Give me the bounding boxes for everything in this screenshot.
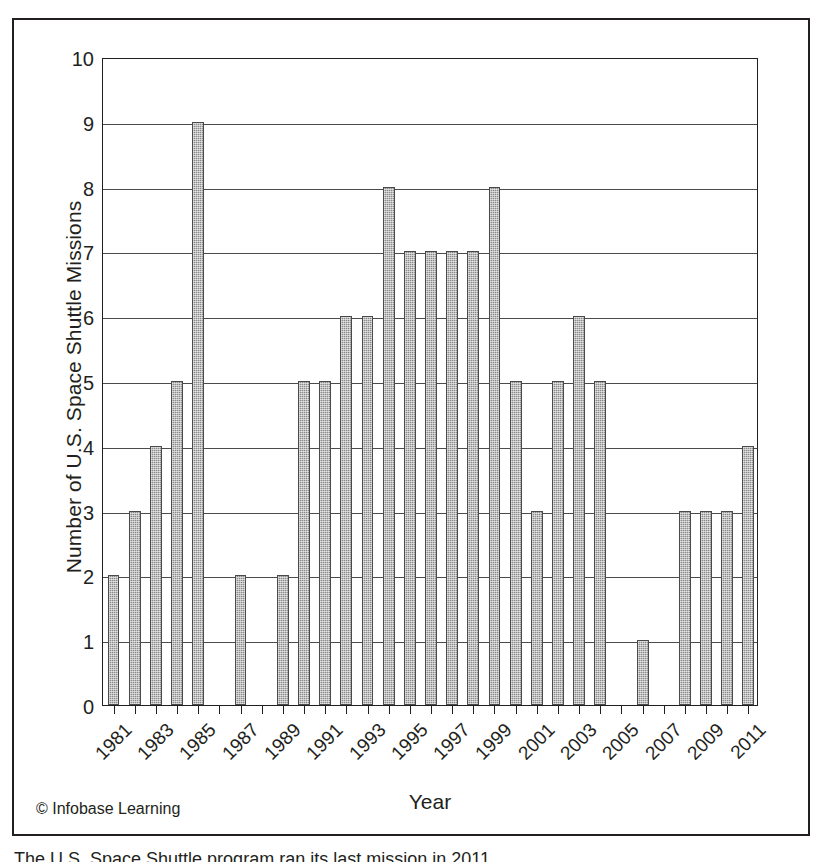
x-tick-label: 1987: [218, 719, 263, 764]
x-tick-label: 1981: [91, 719, 136, 764]
plot-inner: 012345678910 198119831985198719891991199…: [103, 59, 757, 705]
x-tick-mark: [262, 705, 263, 714]
y-tick-label: 1: [83, 631, 94, 654]
bar: [446, 251, 458, 705]
y-tick-label: 3: [83, 501, 94, 524]
bar: [171, 381, 183, 705]
bar: [108, 575, 120, 705]
bar: [340, 316, 352, 705]
x-tick-mark: [494, 705, 495, 714]
x-tick-label: 2003: [556, 719, 601, 764]
bar: [489, 187, 501, 705]
figure-caption: The U.S. Space Shuttle program ran its l…: [14, 848, 814, 862]
x-tick-label: 2001: [514, 719, 559, 764]
x-tick-mark: [516, 705, 517, 714]
bar: [700, 511, 712, 705]
x-tick-label: 1993: [345, 719, 390, 764]
x-tick-label: 2009: [683, 719, 728, 764]
x-tick-mark: [727, 705, 728, 714]
bar: [573, 316, 585, 705]
bar: [319, 381, 331, 705]
x-tick-label: 1983: [133, 719, 178, 764]
x-tick-mark: [558, 705, 559, 714]
bar: [679, 511, 691, 705]
x-tick-label: 2007: [641, 719, 686, 764]
x-tick-mark: [431, 705, 432, 714]
x-tick-mark: [156, 705, 157, 714]
x-tick-mark: [241, 705, 242, 714]
bar: [742, 446, 754, 705]
bar: [467, 251, 479, 705]
x-tick-label: 1989: [260, 719, 305, 764]
x-tick-mark: [621, 705, 622, 714]
bar: [404, 251, 416, 705]
plot-area: 012345678910 198119831985198719891991199…: [102, 58, 758, 706]
x-tick-label: 1991: [302, 719, 347, 764]
x-axis-title: Year: [102, 790, 758, 814]
x-tick-mark: [748, 705, 749, 714]
bar: [552, 381, 564, 705]
x-tick-label: 1985: [175, 719, 220, 764]
copyright-credit: © Infobase Learning: [36, 800, 180, 818]
bar: [192, 122, 204, 705]
bar: [277, 575, 289, 705]
bar: [362, 316, 374, 705]
figure-container: Number of U.S. Space Shuttle Missions 01…: [0, 0, 824, 862]
x-tick-mark: [346, 705, 347, 714]
y-tick-label: 2: [83, 566, 94, 589]
x-tick-mark: [706, 705, 707, 714]
x-tick-mark: [304, 705, 305, 714]
x-tick-mark: [685, 705, 686, 714]
y-tick-label: 0: [83, 696, 94, 719]
x-tick-mark: [198, 705, 199, 714]
x-tick-label: 1999: [472, 719, 517, 764]
x-tick-mark: [135, 705, 136, 714]
x-tick-mark: [643, 705, 644, 714]
x-tick-mark: [410, 705, 411, 714]
bar: [129, 511, 141, 705]
bar: [235, 575, 247, 705]
x-tick-mark: [600, 705, 601, 714]
x-tick-mark: [283, 705, 284, 714]
y-tick-label: 6: [83, 307, 94, 330]
x-tick-mark: [452, 705, 453, 714]
bar: [531, 511, 543, 705]
bar: [425, 251, 437, 705]
y-tick-label: 9: [83, 112, 94, 135]
x-tick-mark: [177, 705, 178, 714]
x-tick-label: 2011: [727, 719, 771, 763]
bar: [298, 381, 310, 705]
x-tick-label: 2005: [599, 719, 644, 764]
x-tick-mark: [114, 705, 115, 714]
x-tick-mark: [389, 705, 390, 714]
x-tick-label: 1995: [387, 719, 432, 764]
y-tick-label: 7: [83, 242, 94, 265]
x-tick-label: 1997: [429, 719, 474, 764]
bar: [721, 511, 733, 705]
y-tick-label: 4: [83, 436, 94, 459]
x-tick-mark: [664, 705, 665, 714]
bar: [510, 381, 522, 705]
y-tick-label: 8: [83, 177, 94, 200]
y-tick-label: 5: [83, 372, 94, 395]
bar: [594, 381, 606, 705]
bar: [637, 640, 649, 705]
y-tick-label: 10: [72, 48, 94, 71]
bar: [383, 187, 395, 705]
x-tick-mark: [537, 705, 538, 714]
x-tick-mark: [368, 705, 369, 714]
x-tick-mark: [579, 705, 580, 714]
x-tick-mark: [219, 705, 220, 714]
x-tick-mark: [325, 705, 326, 714]
chart-frame: Number of U.S. Space Shuttle Missions 01…: [12, 18, 810, 836]
bar: [150, 446, 162, 705]
x-tick-mark: [473, 705, 474, 714]
